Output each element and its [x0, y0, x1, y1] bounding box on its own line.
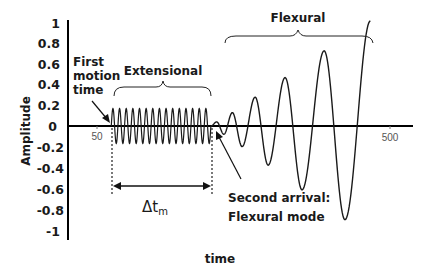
delta-t-arrow — [113, 182, 211, 190]
first-motion-line-1: First — [73, 55, 104, 69]
x-axis-label: time — [205, 252, 236, 266]
delta-t-label: Δtm — [142, 198, 168, 217]
flexural-annotation: Flexural — [225, 11, 373, 43]
y-tick-label: 0.2 — [38, 98, 60, 113]
y-tick-label: -0.8 — [37, 203, 64, 218]
x-tick-label-50: 50 — [91, 131, 103, 142]
y-axis-label: Amplitude — [19, 96, 33, 166]
y-tick-label: -0.4 — [37, 161, 65, 176]
y-tick-label: 0 — [48, 119, 57, 134]
y-tick-labels: 1 0.8 0.6 0.4 0.2 0 -0.2 -0.4 -0.6 -0.8 … — [37, 16, 65, 239]
x-tick-label-500: 500 — [382, 132, 399, 143]
chart-canvas: 1 0.8 0.6 0.4 0.2 0 -0.2 -0.4 -0.6 -0.8 … — [0, 0, 428, 279]
y-tick-label: 1 — [51, 16, 60, 31]
y-tick-label: -0.2 — [37, 140, 64, 155]
y-tick-label: -1 — [46, 224, 60, 239]
flexural-waveform — [211, 21, 370, 220]
extensional-annotation: Extensional — [114, 64, 211, 96]
flexural-label: Flexural — [271, 11, 326, 25]
extensional-brace — [114, 81, 211, 96]
y-tick-label: -0.6 — [37, 182, 65, 197]
second-arrival-line-1: Second arrival: — [228, 191, 330, 205]
flexural-brace — [225, 30, 373, 43]
first-motion-line-2: motion — [73, 69, 120, 83]
extensional-label: Extensional — [124, 64, 203, 78]
y-tick-label: 0.4 — [38, 77, 60, 92]
y-tick-label: 0.6 — [38, 57, 60, 72]
first-motion-line-3: time — [73, 83, 104, 97]
second-arrival-line-2: Flexural mode — [228, 210, 325, 224]
y-tick-label: 0.8 — [38, 36, 60, 51]
